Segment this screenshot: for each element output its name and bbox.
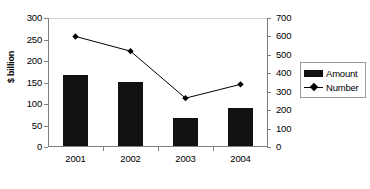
y-tick-right-600: 600 (276, 31, 291, 41)
category-label-2004: 2004 (213, 153, 268, 164)
legend-item-number: Number (304, 80, 359, 94)
marker-2004 (237, 81, 243, 87)
tickmark-left-0 (44, 147, 48, 148)
legend-label-number: Number (326, 82, 359, 93)
y-tick-right-0: 0 (276, 142, 281, 152)
line-series-number (48, 18, 268, 147)
line-marker-icon (304, 84, 323, 91)
tickmark-right-0 (267, 147, 271, 148)
y-tick-right-100: 100 (276, 124, 291, 134)
y-tick-left-150: 150 (27, 78, 42, 88)
y-tick-right-200: 200 (276, 105, 291, 115)
y-tick-right-400: 400 (276, 68, 291, 78)
marker-2001 (72, 33, 78, 39)
combo-chart: $ billion 300250200150100500 70060050040… (0, 0, 370, 189)
category-label-2002: 2002 (103, 153, 158, 164)
y-tick-left-300: 300 (27, 13, 42, 23)
legend-label-amount: Amount (326, 68, 358, 79)
y-tick-right-500: 500 (276, 50, 291, 60)
legend-item-amount: Amount (304, 66, 358, 80)
bar-swatch-icon (304, 70, 323, 77)
line-path-number (76, 36, 241, 98)
plot-area (48, 18, 268, 147)
y-tick-left-0: 0 (37, 142, 42, 152)
y-tick-right-300: 300 (276, 87, 291, 97)
x-axis-category-labels: 2001200220032004 (48, 153, 268, 167)
chart-legend: Amount Number (300, 62, 366, 98)
category-label-2003: 2003 (158, 153, 213, 164)
y-tick-right-700: 700 (276, 13, 291, 23)
y-axis-left-ticks: 300250200150100500 (0, 0, 42, 189)
y-tick-left-200: 200 (27, 56, 42, 66)
category-label-2001: 2001 (48, 153, 103, 164)
y-tick-left-100: 100 (27, 99, 42, 109)
y-tick-left-250: 250 (27, 35, 42, 45)
y-tick-left-50: 50 (32, 121, 42, 131)
